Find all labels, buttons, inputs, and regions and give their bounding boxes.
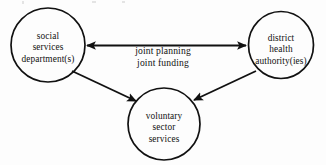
edge-social-to-voluntary	[72, 71, 136, 101]
node-voluntary-sector-line3: services	[146, 134, 183, 145]
node-voluntary-sector-label: voluntary sector services	[146, 111, 183, 145]
node-district-health-line2: health	[255, 44, 306, 55]
scan-artifact	[22, 1, 24, 4]
edge-label-joint-planning-funding: joint planning joint funding	[135, 45, 191, 68]
node-district-health-label: district health authority(ies)	[255, 33, 306, 67]
node-district-health-line3: authority(ies)	[255, 56, 306, 67]
node-social-services-label: social services department(s)	[22, 31, 75, 65]
scan-artifact	[92, 1, 96, 3]
node-voluntary-sector-line1: voluntary	[146, 111, 183, 122]
edge-label-line2: joint funding	[135, 57, 191, 69]
scan-artifact	[122, 1, 125, 3]
diagram-canvas: social services department(s) district h…	[0, 0, 326, 165]
node-voluntary-sector-line2: sector	[146, 122, 183, 133]
edge-label-line1: joint planning	[135, 45, 191, 57]
node-social-services-line2: services	[22, 42, 75, 53]
node-district-health-line1: district	[255, 33, 306, 44]
node-social-services-line1: social	[22, 31, 75, 42]
node-social-services-line3: department(s)	[22, 54, 75, 65]
edge-district-to-voluntary	[194, 71, 256, 100]
